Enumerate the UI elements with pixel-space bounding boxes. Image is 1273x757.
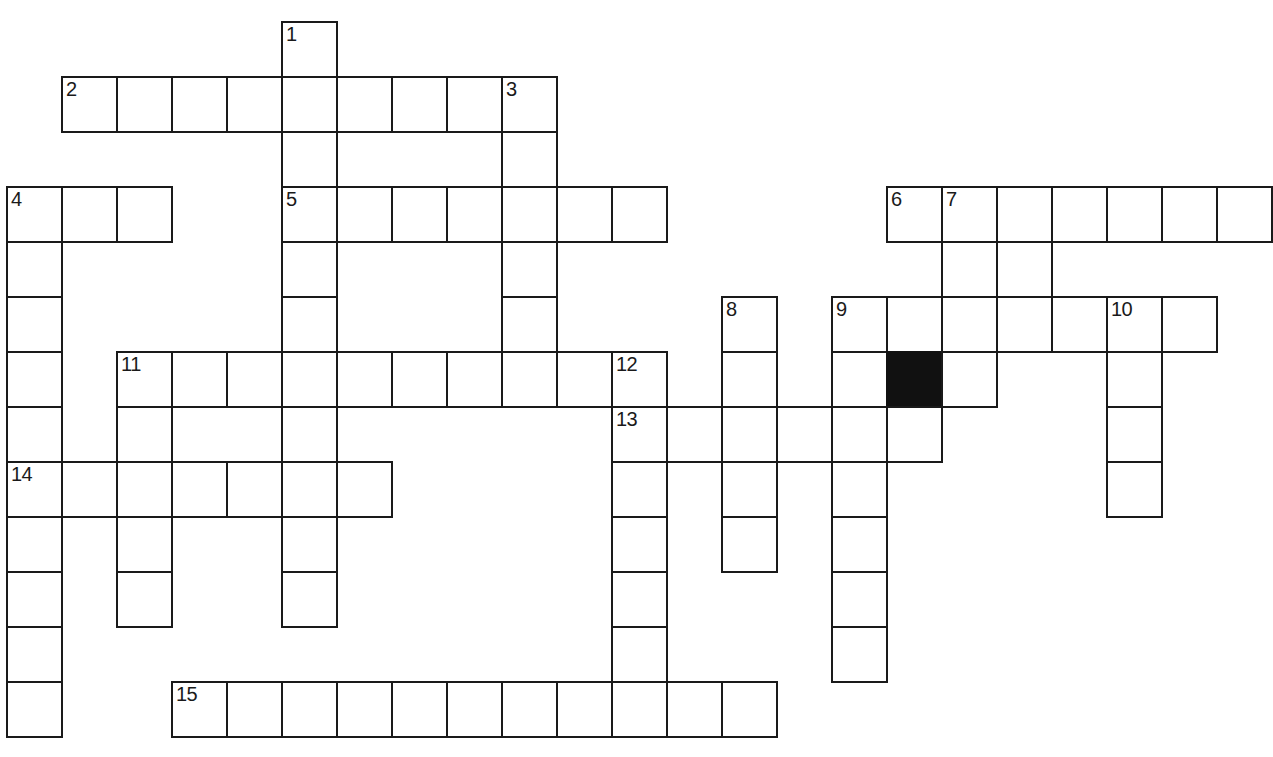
crossword-cell[interactable] bbox=[941, 351, 998, 408]
crossword-cell[interactable] bbox=[1106, 406, 1163, 463]
crossword-cell[interactable] bbox=[281, 571, 338, 628]
crossword-cell[interactable] bbox=[116, 406, 173, 463]
crossword-cell[interactable] bbox=[336, 76, 393, 133]
crossword-cell[interactable] bbox=[666, 406, 723, 463]
crossword-cell[interactable] bbox=[446, 681, 503, 738]
crossword-cell[interactable] bbox=[831, 626, 888, 683]
crossword-cell[interactable] bbox=[611, 516, 668, 573]
crossword-cell[interactable] bbox=[336, 461, 393, 518]
crossword-cell[interactable] bbox=[1051, 186, 1108, 243]
crossword-cell[interactable] bbox=[116, 516, 173, 573]
crossword-cell[interactable] bbox=[501, 351, 558, 408]
crossword-cell[interactable] bbox=[336, 351, 393, 408]
crossword-cell[interactable] bbox=[281, 406, 338, 463]
crossword-cell[interactable] bbox=[116, 76, 173, 133]
crossword-cell[interactable] bbox=[6, 296, 63, 353]
crossword-cell[interactable] bbox=[501, 186, 558, 243]
crossword-cell[interactable] bbox=[391, 351, 448, 408]
crossword-cell[interactable] bbox=[831, 406, 888, 463]
crossword-cell[interactable] bbox=[6, 571, 63, 628]
crossword-cell[interactable] bbox=[1161, 296, 1218, 353]
crossword-cell[interactable] bbox=[831, 461, 888, 518]
crossword-cell[interactable] bbox=[116, 186, 173, 243]
crossword-cell[interactable] bbox=[446, 186, 503, 243]
crossword-cell[interactable] bbox=[446, 351, 503, 408]
crossword-cell[interactable] bbox=[501, 681, 558, 738]
crossword-cell[interactable] bbox=[171, 76, 228, 133]
crossword-cell[interactable] bbox=[391, 681, 448, 738]
crossword-cell[interactable] bbox=[666, 681, 723, 738]
crossword-cell[interactable] bbox=[116, 461, 173, 518]
crossword-cell[interactable] bbox=[226, 461, 283, 518]
crossword-cell[interactable] bbox=[226, 681, 283, 738]
crossword-cell[interactable] bbox=[941, 241, 998, 298]
crossword-cell[interactable] bbox=[996, 296, 1053, 353]
crossword-cell[interactable] bbox=[336, 681, 393, 738]
crossword-cell[interactable] bbox=[611, 571, 668, 628]
crossword-cell[interactable] bbox=[501, 241, 558, 298]
crossword-cell[interactable]: 14 bbox=[6, 461, 63, 518]
crossword-cell[interactable] bbox=[611, 626, 668, 683]
crossword-cell[interactable]: 15 bbox=[171, 681, 228, 738]
crossword-cell[interactable] bbox=[886, 406, 943, 463]
crossword-cell[interactable] bbox=[116, 571, 173, 628]
crossword-cell[interactable] bbox=[501, 131, 558, 188]
crossword-cell[interactable]: 5 bbox=[281, 186, 338, 243]
crossword-cell[interactable] bbox=[721, 406, 778, 463]
crossword-cell[interactable] bbox=[611, 681, 668, 738]
crossword-cell[interactable] bbox=[6, 406, 63, 463]
crossword-cell[interactable] bbox=[6, 241, 63, 298]
crossword-cell[interactable] bbox=[281, 241, 338, 298]
crossword-grid[interactable]: 123456789101112131415 bbox=[0, 0, 1273, 757]
crossword-cell[interactable]: 11 bbox=[116, 351, 173, 408]
crossword-cell[interactable] bbox=[1106, 186, 1163, 243]
crossword-cell[interactable] bbox=[281, 516, 338, 573]
crossword-cell[interactable] bbox=[281, 76, 338, 133]
crossword-cell[interactable] bbox=[941, 296, 998, 353]
crossword-cell[interactable] bbox=[281, 131, 338, 188]
crossword-cell[interactable] bbox=[831, 351, 888, 408]
crossword-cell[interactable]: 12 bbox=[611, 351, 668, 408]
crossword-cell[interactable] bbox=[61, 186, 118, 243]
crossword-cell[interactable]: 4 bbox=[6, 186, 63, 243]
crossword-cell[interactable] bbox=[1106, 461, 1163, 518]
crossword-cell[interactable] bbox=[996, 186, 1053, 243]
crossword-cell[interactable] bbox=[721, 351, 778, 408]
crossword-cell[interactable]: 6 bbox=[886, 186, 943, 243]
crossword-cell[interactable]: 7 bbox=[941, 186, 998, 243]
crossword-cell[interactable] bbox=[226, 351, 283, 408]
crossword-cell[interactable] bbox=[831, 516, 888, 573]
crossword-cell[interactable]: 3 bbox=[501, 76, 558, 133]
crossword-cell[interactable] bbox=[281, 681, 338, 738]
crossword-cell[interactable] bbox=[171, 351, 228, 408]
crossword-cell[interactable] bbox=[6, 626, 63, 683]
crossword-cell[interactable]: 13 bbox=[611, 406, 668, 463]
crossword-cell[interactable] bbox=[391, 76, 448, 133]
crossword-cell[interactable]: 10 bbox=[1106, 296, 1163, 353]
crossword-cell[interactable] bbox=[996, 241, 1053, 298]
crossword-cell[interactable] bbox=[1161, 186, 1218, 243]
crossword-cell[interactable] bbox=[886, 296, 943, 353]
crossword-cell[interactable] bbox=[831, 571, 888, 628]
crossword-cell[interactable] bbox=[611, 186, 668, 243]
crossword-cell[interactable] bbox=[226, 76, 283, 133]
crossword-cell[interactable] bbox=[556, 681, 613, 738]
crossword-cell[interactable] bbox=[556, 351, 613, 408]
crossword-cell[interactable]: 9 bbox=[831, 296, 888, 353]
crossword-cell[interactable] bbox=[721, 681, 778, 738]
crossword-cell[interactable] bbox=[556, 186, 613, 243]
crossword-cell[interactable] bbox=[281, 461, 338, 518]
crossword-cell[interactable] bbox=[611, 461, 668, 518]
crossword-cell[interactable] bbox=[6, 351, 63, 408]
crossword-cell[interactable]: 2 bbox=[61, 76, 118, 133]
crossword-cell[interactable] bbox=[1106, 351, 1163, 408]
crossword-cell[interactable]: 1 bbox=[281, 21, 338, 78]
crossword-cell[interactable] bbox=[6, 681, 63, 738]
crossword-cell[interactable] bbox=[721, 516, 778, 573]
crossword-cell[interactable] bbox=[6, 516, 63, 573]
crossword-cell[interactable] bbox=[1051, 296, 1108, 353]
crossword-cell[interactable] bbox=[1216, 186, 1273, 243]
crossword-cell[interactable]: 8 bbox=[721, 296, 778, 353]
crossword-cell[interactable] bbox=[281, 296, 338, 353]
crossword-cell[interactable] bbox=[776, 406, 833, 463]
